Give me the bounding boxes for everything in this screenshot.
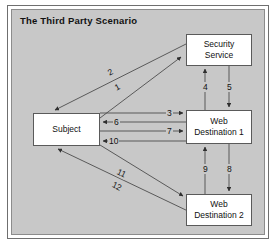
node-security-service-label-line1: Security <box>204 39 235 50</box>
page-title: The Third Party Scenario <box>20 15 137 26</box>
node-subject-label: Subject <box>52 124 80 135</box>
node-web-destination-2-label-line2: Destination 2 <box>194 210 244 221</box>
edge-label-5: 5 <box>226 83 233 92</box>
edge-label-10: 10 <box>108 137 119 146</box>
node-web-destination-2-label-line1: Web <box>210 199 227 210</box>
edge-line-12 <box>58 149 190 212</box>
edge-line-2 <box>55 44 186 110</box>
edge-label-6: 6 <box>113 118 120 127</box>
node-security-service-label-line2: Service <box>205 50 233 61</box>
diagram-figure: The Third Party Scenario Security Servic… <box>0 0 276 246</box>
node-web-destination-1-label-line2: Destination 1 <box>194 127 244 138</box>
node-subject[interactable]: Subject <box>33 113 100 146</box>
edge-label-8: 8 <box>226 165 233 174</box>
edge-label-7: 7 <box>166 127 173 136</box>
node-web-destination-1-label-line1: Web <box>210 116 227 127</box>
edge-label-3: 3 <box>166 109 173 118</box>
edge-label-9: 9 <box>202 165 209 174</box>
node-web-destination-1[interactable]: Web Destination 1 <box>186 110 252 144</box>
edge-label-4: 4 <box>202 83 209 92</box>
node-security-service[interactable]: Security Service <box>186 34 252 66</box>
node-web-destination-2[interactable]: Web Destination 2 <box>186 194 252 226</box>
